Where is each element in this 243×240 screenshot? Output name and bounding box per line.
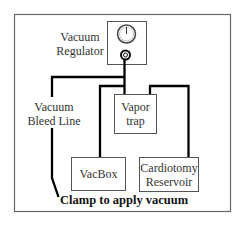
clamp-label: Clamp to apply vacuum xyxy=(60,193,188,207)
bleed-line xyxy=(52,127,59,197)
vacbox-box: VacBox xyxy=(71,157,126,191)
cardiotomy-line2: Reservoir xyxy=(146,175,193,189)
bleed-line-label: Vacuum Bleed Line xyxy=(24,100,84,128)
gauge-icon xyxy=(118,25,136,43)
bleed-label-line1: Vacuum xyxy=(24,100,84,114)
regulator-label-line1: Vacuum xyxy=(50,30,110,44)
cardiotomy-reservoir-box: Cardiotomy Reservoir xyxy=(139,157,199,192)
bleed-label-line2: Bleed Line xyxy=(24,114,84,128)
vapor-trap-line1: Vapor xyxy=(121,100,150,114)
regulator-label-line2: Regulator xyxy=(50,44,110,58)
vapor-trap-line2: trap xyxy=(126,114,145,128)
cardiotomy-line1: Cardiotomy xyxy=(140,161,197,175)
vacbox-label: VacBox xyxy=(80,167,118,181)
regulator-label: Vacuum Regulator xyxy=(50,30,110,58)
vapor-trap-box: Vapor trap xyxy=(114,94,157,134)
